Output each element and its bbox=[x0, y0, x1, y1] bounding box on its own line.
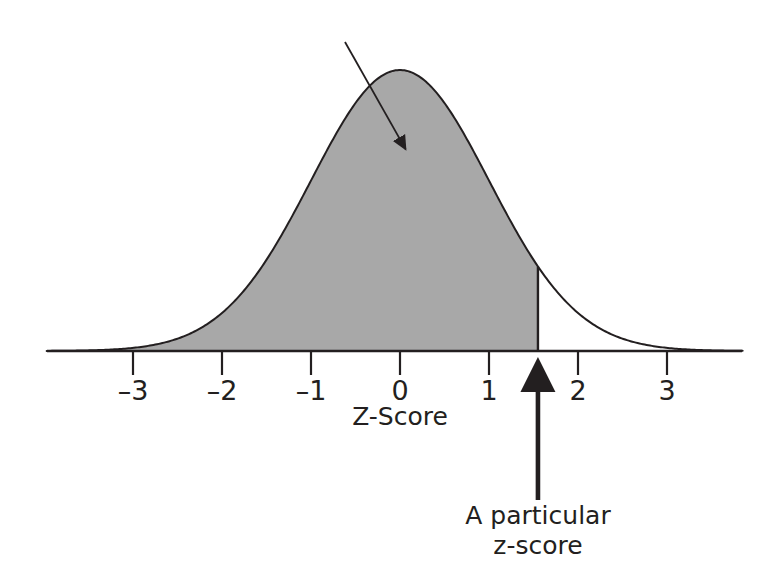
x-axis-tick-label-3: 3 bbox=[658, 375, 675, 406]
figure-root: –3–2–10123 Z-Score A particular z-score bbox=[0, 0, 777, 582]
callout-line-1: A particular bbox=[465, 501, 611, 530]
normal-distribution-chart: –3–2–10123 Z-Score A particular z-score bbox=[0, 0, 777, 582]
x-axis-tick-label-neg1: –1 bbox=[296, 375, 327, 406]
callout-line-2: z-score bbox=[493, 531, 582, 560]
x-axis-tick-label-1: 1 bbox=[480, 375, 497, 406]
x-axis-tick-label-2: 2 bbox=[569, 375, 586, 406]
x-axis-title: Z-Score bbox=[352, 402, 448, 431]
x-axis-tick-label-neg2: –2 bbox=[207, 375, 238, 406]
x-axis-tick-label-neg3: –3 bbox=[118, 375, 149, 406]
